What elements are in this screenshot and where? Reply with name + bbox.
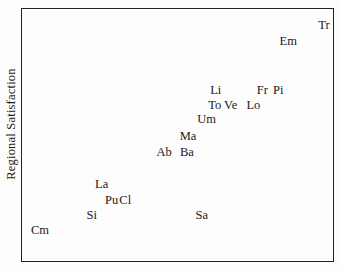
data-point-label: La xyxy=(95,177,108,190)
data-point-label: Ba xyxy=(180,146,194,159)
data-point-label: Lo xyxy=(246,99,260,112)
plot-area: CmSiSaPuClLaAbBaMaUmToVeLoLiFrPiEmTr xyxy=(21,8,334,262)
data-point-label: Li xyxy=(210,84,221,97)
data-point-label: Cl xyxy=(119,193,131,206)
data-point-label: Em xyxy=(280,35,297,48)
data-point-label: Ab xyxy=(156,146,171,159)
data-point-label: Ve xyxy=(224,99,237,112)
y-axis-label: Regional Satisfaction xyxy=(4,68,19,179)
data-point-label: Fr xyxy=(257,84,268,97)
data-point-label: Si xyxy=(86,209,96,222)
data-point-label: To xyxy=(208,99,221,112)
data-point-label: Pi xyxy=(273,84,283,97)
scatter-plot-figure: Regional Satisfaction CmSiSaPuClLaAbBaMa… xyxy=(0,0,339,271)
data-point-label: Um xyxy=(197,113,216,126)
data-point-label: Ma xyxy=(180,130,197,143)
data-point-label: Sa xyxy=(196,209,209,222)
data-point-label: Tr xyxy=(318,19,329,32)
data-point-label: Pu xyxy=(105,193,118,206)
data-point-label: Cm xyxy=(31,224,49,237)
